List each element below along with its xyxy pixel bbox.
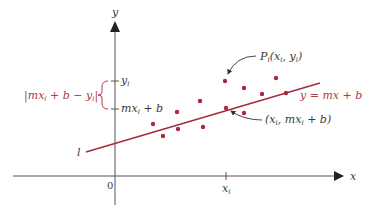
y-axis-arrow-icon: [110, 21, 120, 32]
x-axis-label: x: [350, 170, 357, 183]
residual-label: |mxi + b − yi|: [24, 89, 98, 103]
annotation-arrow-icon: [231, 111, 262, 120]
x-axis-arrow-icon: [334, 171, 344, 181]
origin-label: 0: [107, 180, 113, 191]
data-point: [198, 99, 202, 103]
line-point-label: (xi, mxi + b): [265, 113, 331, 127]
data-point: [151, 122, 155, 126]
data-point: [242, 86, 246, 90]
data-point: [201, 125, 205, 129]
x-tick-label: xi: [222, 182, 230, 196]
line-point: [224, 106, 228, 110]
y-tick-fitted-label: mxi + b: [121, 102, 163, 116]
data-point: [242, 111, 246, 115]
y-axis-label: y: [111, 6, 119, 19]
data-point: [274, 76, 278, 80]
annotation-arrow-icon: [228, 56, 256, 74]
line-name-label: l: [77, 146, 81, 159]
regression-diagram: x y 0 xi yi mxi + b |mxi + b − yi| l y =…: [0, 0, 379, 211]
data-point: [260, 92, 264, 96]
line-equation-label: y = mx + b: [299, 89, 362, 102]
data-point: [176, 127, 180, 131]
data-point: [284, 91, 288, 95]
data-point-pi: [223, 79, 227, 83]
x-axis: [13, 171, 344, 181]
data-points: [151, 76, 288, 138]
point-pi-label: Pi(xi, yi): [259, 50, 302, 64]
y-axis: [110, 21, 120, 205]
y-tick-yi-label: yi: [120, 74, 129, 88]
data-point: [175, 110, 179, 114]
data-point: [161, 134, 165, 138]
brace-icon: [98, 81, 108, 109]
